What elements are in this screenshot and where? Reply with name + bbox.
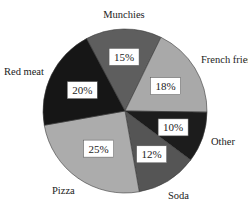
label-munchies: Munchies <box>103 9 144 20</box>
svg-text:25%: 25% <box>89 143 109 155</box>
pct-label-soda: 12% <box>137 146 167 163</box>
svg-text:18%: 18% <box>155 80 175 92</box>
label-french-fries: French fries <box>201 54 248 65</box>
label-pizza: Pizza <box>52 185 75 196</box>
pct-label-french-fries: 18% <box>151 78 181 95</box>
pct-label-red-meat: 20% <box>67 82 97 99</box>
label-red-meat: Red meat <box>4 66 44 77</box>
label-soda: Soda <box>168 190 189 200</box>
svg-text:10%: 10% <box>163 121 183 133</box>
svg-text:15%: 15% <box>114 51 134 63</box>
pct-label-pizza: 25% <box>84 140 114 157</box>
pct-label-munchies: 15% <box>109 48 139 65</box>
pie-chart: 15%18%10%12%25%20% Munchies French fries… <box>0 0 248 200</box>
svg-text:20%: 20% <box>72 84 92 96</box>
label-other: Other <box>211 136 235 147</box>
pct-label-other: 10% <box>158 119 188 136</box>
svg-text:12%: 12% <box>142 148 162 160</box>
